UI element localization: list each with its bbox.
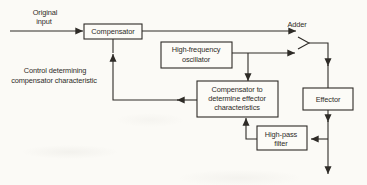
control-label-line2: compensator characteristic <box>11 76 97 85</box>
effector-label: Effector <box>316 95 341 104</box>
compensator-node: Compensator <box>84 24 142 39</box>
hf-oscillator-label-line2: oscillator <box>182 55 211 64</box>
hp-filter-label-line1: High-pass <box>265 130 298 139</box>
hf-oscillator-label-line1: High-frequency <box>172 45 221 54</box>
comp-effector-node: Compensator to determine effector charac… <box>197 81 278 117</box>
compensator-label: Compensator <box>91 27 135 36</box>
comp-effector-label-line1: Compensator to <box>211 85 262 94</box>
block-diagram: Compensator High-frequency oscillator Co… <box>0 0 367 185</box>
adder-junction-symbol <box>298 37 309 49</box>
hf-oscillator-node: High-frequency oscillator <box>161 42 232 68</box>
original-input-label-line1: Original <box>33 8 58 17</box>
control-label-line1: Control determining <box>24 66 87 75</box>
highpass-output-arrow <box>246 118 257 139</box>
original-input-label-line2: input <box>36 17 52 26</box>
effector-node: Effector <box>303 88 353 110</box>
adder-output-arrow <box>309 43 328 66</box>
hp-filter-node: High-pass filter <box>257 126 307 150</box>
comp-effector-label-line2: determine effector <box>208 94 266 103</box>
hp-filter-label-line2: filter <box>274 139 288 148</box>
adder-label: Adder <box>287 20 307 29</box>
diagram-canvas: Compensator High-frequency oscillator Co… <box>0 0 367 185</box>
comp-effector-label-line3: characteristics <box>214 103 260 112</box>
